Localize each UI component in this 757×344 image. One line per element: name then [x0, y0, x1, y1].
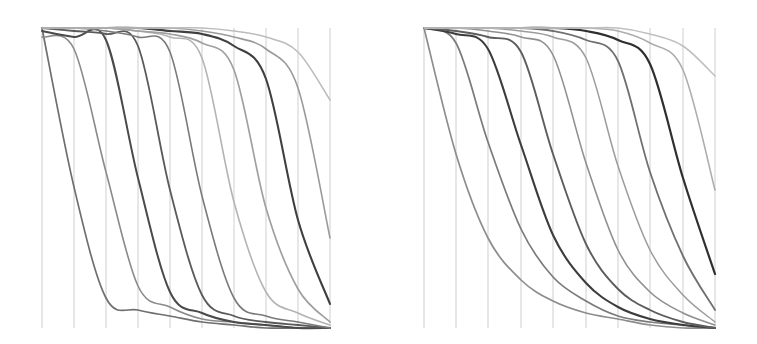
series-group-right [424, 28, 715, 329]
parallel-coordinates-figure [0, 0, 757, 344]
series-line-s2 [42, 35, 330, 328]
series-line-s9 [42, 28, 330, 238]
axis-group-left [42, 28, 330, 328]
series-line-s3 [42, 29, 330, 328]
series-line-t9 [424, 28, 715, 190]
chart-panel-right [378, 0, 757, 344]
series-line-t7 [424, 28, 715, 310]
series-line-s1 [42, 28, 330, 328]
chart-panel-left [0, 0, 378, 344]
series-line-s8 [42, 28, 330, 304]
series-line-s5 [42, 28, 330, 328]
series-line-t8 [424, 28, 715, 274]
series-line-s4 [42, 28, 330, 328]
chart-svg-right [378, 0, 757, 344]
chart-svg-left [0, 0, 378, 344]
series-group-left [42, 28, 330, 328]
series-line-s6 [42, 28, 330, 325]
